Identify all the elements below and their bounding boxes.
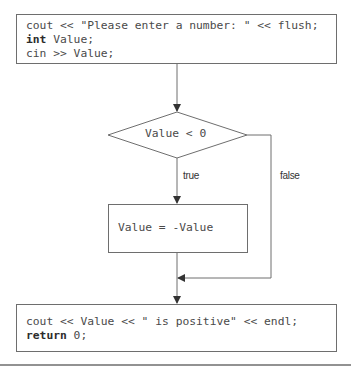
code-line: cin >> Value; [26,47,336,61]
process-block: Value = -Value [108,204,248,253]
true-label: true [183,170,199,181]
code-line: return 0; [26,329,336,343]
end-block: cout << Value << " is positive" << endl;… [16,304,337,352]
code-text: 0; [67,329,87,342]
decision-label: Value < 0 [145,127,206,140]
code-line: cout << "Please enter a number: " << flu… [26,19,336,33]
code-text: Value; [46,33,94,46]
process-text: Value = -Value [118,221,213,234]
keyword: int [26,33,46,46]
false-label: false [280,170,300,181]
code-line: int Value; [26,33,336,47]
start-block: cout << "Please enter a number: " << flu… [16,14,337,64]
code-line: cout << Value << " is positive" << endl; [26,315,336,329]
keyword: return [26,329,67,342]
